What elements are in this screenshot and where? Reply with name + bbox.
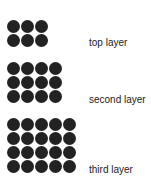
top-layer-grid [7,20,48,47]
sphere-icon [7,132,20,145]
sphere-icon [21,146,34,159]
sphere-icon [21,132,34,145]
sphere-icon [63,118,76,131]
sphere-icon [49,146,62,159]
sphere-icon [21,62,34,75]
sphere-icon [7,146,20,159]
sphere-icon [7,76,20,89]
sphere-icon [7,62,20,75]
sphere-icon [35,20,48,33]
sphere-icon [49,90,62,103]
sphere-icon [35,160,48,173]
sphere-icon [63,160,76,173]
sphere-icon [7,20,20,33]
sphere-icon [35,76,48,89]
sphere-icon [21,118,34,131]
sphere-icon [35,118,48,131]
sphere-icon [49,160,62,173]
sphere-icon [35,132,48,145]
sphere-icon [7,90,20,103]
sphere-icon [35,62,48,75]
sphere-icon [7,118,20,131]
sphere-icon [35,146,48,159]
sphere-icon [49,76,62,89]
sphere-icon [49,132,62,145]
sphere-icon [35,90,48,103]
sphere-icon [21,34,34,47]
sphere-icon [63,132,76,145]
sphere-icon [7,160,20,173]
sphere-icon [21,90,34,103]
second-layer-label: second layer [89,95,146,105]
sphere-icon [21,76,34,89]
top-layer-label: top layer [89,38,127,48]
sphere-icon [49,62,62,75]
sphere-icon [7,34,20,47]
sphere-icon [21,160,34,173]
third-layer-label: third layer [89,165,133,175]
sphere-icon [63,146,76,159]
sphere-icon [21,20,34,33]
sphere-icon [49,118,62,131]
sphere-icon [35,34,48,47]
second-layer-grid [7,62,62,103]
third-layer-grid [7,118,76,173]
